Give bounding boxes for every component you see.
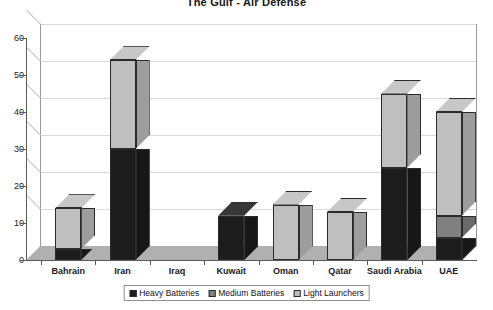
bar-segment-front-face [381, 94, 407, 168]
bar-segment-side-face [407, 168, 421, 261]
bar-segment-side-face [136, 149, 150, 260]
x-axis-tick-mark [313, 260, 314, 265]
bar-segment[interactable] [273, 205, 299, 261]
bar-segment-front-face [218, 216, 244, 260]
bar-segment[interactable] [218, 216, 244, 260]
x-axis-category-label: Oman [273, 266, 299, 276]
bar-segment-front-face [273, 205, 299, 261]
bar-segment-front-face [381, 168, 407, 261]
bar-segment[interactable] [381, 168, 407, 261]
legend-item[interactable]: Light Launchers [293, 288, 364, 298]
x-axis-tick-mark [150, 260, 151, 265]
bar-segment[interactable] [436, 112, 462, 216]
bar-segment-side-face [136, 60, 150, 149]
x-axis-category-label: UAE [439, 266, 458, 276]
y-axis-tick-mark [20, 38, 26, 39]
bar-segment-front-face [55, 208, 81, 249]
y-axis-tick-mark [20, 75, 26, 76]
x-axis-tick-mark [95, 260, 96, 265]
bar-segment-front-face [436, 216, 462, 238]
x-axis-category-label: Bahrain [51, 266, 85, 276]
bar-segment-front-face [110, 149, 136, 260]
bar-segment-front-face [55, 249, 81, 260]
x-axis-category-label: Iraq [169, 266, 186, 276]
bar-segment-front-face [110, 60, 136, 149]
bar-segment-front-face [327, 212, 353, 260]
bar-segment-side-face [462, 112, 476, 216]
y-axis-tick-mark [20, 223, 26, 224]
legend-swatch [129, 290, 136, 297]
x-axis-category-label: Iran [114, 266, 131, 276]
x-axis-category-label: Saudi Arabia [367, 266, 422, 276]
x-axis-tick-mark [204, 260, 205, 265]
bar-segment[interactable] [436, 238, 462, 260]
chart-container: The Gulf - Air Defense 0102030405060 Bah… [0, 0, 493, 310]
bar-segment-front-face [436, 238, 462, 260]
legend-swatch [208, 290, 215, 297]
x-axis-tick-mark [367, 260, 368, 265]
legend-item[interactable]: Medium Batteries [208, 288, 284, 298]
legend-label: Medium Batteries [218, 288, 284, 298]
x-axis-tick-mark [259, 260, 260, 265]
bar-segment[interactable] [436, 216, 462, 238]
x-axis-category-label: Qatar [328, 266, 352, 276]
gridline-depth-edge [26, 10, 41, 25]
legend-swatch [293, 290, 300, 297]
x-axis-line [26, 260, 477, 261]
legend-label: Light Launchers [303, 288, 364, 298]
bar-segment[interactable] [327, 212, 353, 260]
legend-label: Heavy Batteries [139, 288, 199, 298]
y-axis-tick-mark [20, 149, 26, 150]
bar-segment[interactable] [110, 60, 136, 149]
bar-segment[interactable] [55, 208, 81, 249]
chart-title: The Gulf - Air Defense [0, 0, 493, 8]
y-axis-tick-mark [20, 112, 26, 113]
bar-segment[interactable] [55, 249, 81, 260]
y-axis-line [26, 38, 27, 260]
x-axis-tick-mark [422, 260, 423, 265]
plot-side-wall [26, 38, 40, 260]
x-axis-category-label: Kuwait [217, 266, 247, 276]
chart-legend: Heavy BatteriesMedium BatteriesLight Lau… [123, 285, 370, 301]
gridline [41, 61, 476, 62]
y-axis-tick-mark [20, 186, 26, 187]
x-axis-tick-mark [41, 260, 42, 265]
gridline [41, 24, 476, 25]
legend-item[interactable]: Heavy Batteries [129, 288, 199, 298]
bar-segment[interactable] [381, 94, 407, 168]
bar-segment[interactable] [110, 149, 136, 260]
bar-segment-front-face [436, 112, 462, 216]
